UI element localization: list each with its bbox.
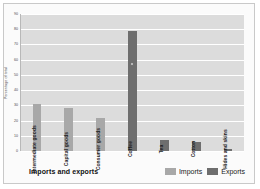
legend-item[interactable]: Exports	[207, 168, 245, 175]
y-axis-tick-label: 90	[14, 12, 18, 16]
y-axis-tick-label: 30	[14, 103, 18, 107]
bars-group: Intermediate goodsCapital goodsConsumer …	[21, 14, 244, 151]
legend-label: Exports	[221, 168, 245, 175]
legend-label: Imports	[179, 168, 202, 175]
bar-category-label: Tea	[158, 145, 164, 154]
plot-wrapper: Intermediate goodsCapital goodsConsumer …	[20, 14, 243, 151]
bar	[128, 31, 137, 151]
legend-item[interactable]: Imports	[165, 168, 202, 175]
legend-swatch	[207, 168, 218, 175]
y-axis-tick-label: 40	[14, 88, 18, 92]
y-axis-tick-label: 60	[14, 58, 18, 62]
y-axis-tick-label: 10	[14, 134, 18, 138]
bar-category-label: Cotton	[190, 141, 196, 158]
chart-legend: ImportsExports	[165, 168, 245, 175]
y-axis-tick-label: 80	[14, 27, 18, 31]
chart-figure: Intermediate goodsCapital goodsConsumer …	[0, 0, 260, 189]
plot-area: Intermediate goodsCapital goodsConsumer …	[20, 14, 244, 151]
y-axis-title: Percentage of total	[4, 28, 8, 138]
bar-data-marker	[130, 62, 134, 66]
y-axis-tick-label: 50	[14, 73, 18, 77]
y-axis-tick-label: 0	[16, 149, 18, 153]
legend-swatch	[165, 168, 176, 175]
chart-footer: Imports and exports ImportsExports	[3, 156, 255, 186]
chart-title: Imports and exports	[29, 168, 98, 175]
bar-category-label: Coffee	[127, 141, 133, 157]
y-axis-tick-label: 20	[14, 119, 18, 123]
y-axis-tick-label: 70	[14, 42, 18, 46]
